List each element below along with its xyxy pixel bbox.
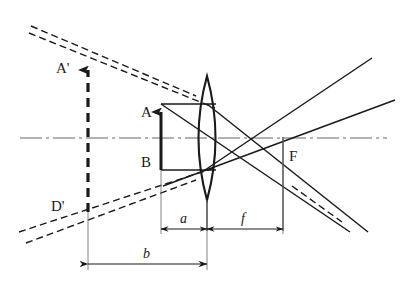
label-object-point-bottom: B (141, 154, 151, 170)
ray-through-center-from-A (161, 104, 350, 232)
dimension-b (88, 212, 207, 270)
label-image-distance: b (143, 246, 150, 261)
ray-refracted-downward (207, 104, 368, 232)
label-focal-length: f (241, 211, 247, 226)
ray-bundle-solid (161, 58, 395, 232)
label-object-point-top: A (141, 104, 152, 120)
ray-diagram-canvas: A' A B D' F a f b (0, 0, 404, 290)
label-image-point-bottom: D' (51, 198, 65, 214)
optics-ray-diagram: A' A B D' F a f b (0, 0, 404, 290)
label-focal-point: F (289, 148, 297, 164)
label-object-distance: a (180, 211, 187, 226)
label-image-point: A' (56, 60, 70, 76)
